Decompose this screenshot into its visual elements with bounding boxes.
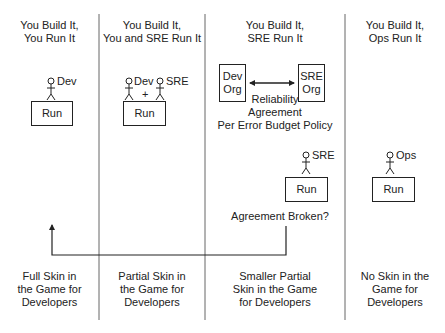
footer-line: Developers bbox=[99, 296, 205, 309]
footer-line: Game for bbox=[345, 283, 445, 296]
reliability-agreement-label: Reliability Agreement Per Error Budget P… bbox=[205, 93, 345, 132]
footer-line: Developers bbox=[345, 296, 445, 309]
column-1-footer: Full Skin in the Game for Developers bbox=[0, 270, 99, 309]
footer-line: No Skin in the bbox=[345, 270, 445, 283]
agreement-broken-feedback-arrow bbox=[52, 225, 286, 255]
stick-figure-dev-icon bbox=[125, 78, 133, 100]
title-line: You Build It, bbox=[0, 19, 99, 32]
column-3-title: You Build It, SRE Run It bbox=[205, 19, 345, 45]
title-line: You Build It, bbox=[345, 19, 445, 32]
title-line: SRE Run It bbox=[205, 32, 345, 45]
run-box: Run bbox=[123, 101, 166, 126]
column-4-title: You Build It, Ops Run It bbox=[345, 19, 445, 45]
stick-figure-ops-icon bbox=[386, 152, 394, 174]
column-2-title: You Build It, You and SRE Run It bbox=[99, 19, 205, 45]
stick-figure-dev-icon bbox=[47, 78, 55, 100]
actor-label-sre: SRE bbox=[312, 149, 335, 162]
footer-line: for Developers bbox=[205, 296, 345, 309]
column-4-footer: No Skin in the Game for Developers bbox=[345, 270, 445, 309]
column-3-footer: Smaller Partial Skin in the Game for Dev… bbox=[205, 270, 345, 309]
stick-figure-sre-icon bbox=[156, 78, 164, 100]
footer-line: Skin in the Game bbox=[205, 283, 345, 296]
plus-sign: + bbox=[142, 88, 148, 101]
actor-label-sre: SRE bbox=[166, 75, 189, 88]
box-line: SRE bbox=[300, 70, 323, 83]
agreement-line: Per Error Budget Policy bbox=[205, 119, 345, 132]
footer-line: Smaller Partial bbox=[205, 270, 345, 283]
agreement-line: Agreement bbox=[205, 106, 345, 119]
column-1-title: You Build It, You Run It bbox=[0, 19, 99, 45]
box-line: Dev bbox=[223, 70, 243, 83]
stick-figure-sre-icon bbox=[302, 152, 310, 174]
title-line: Ops Run It bbox=[345, 32, 445, 45]
footer-line: Full Skin in bbox=[0, 270, 99, 283]
run-box: Run bbox=[285, 177, 328, 202]
actor-label-dev: Dev bbox=[134, 75, 154, 88]
agreement-broken-label: Agreement Broken? bbox=[205, 210, 345, 223]
footer-line: Partial Skin in bbox=[99, 270, 205, 283]
footer-line: the Game for bbox=[99, 283, 205, 296]
actor-label-dev: Dev bbox=[57, 75, 77, 88]
footer-line: the Game for bbox=[0, 283, 99, 296]
run-box: Run bbox=[31, 101, 73, 126]
actor-label-ops: Ops bbox=[396, 149, 416, 162]
title-line: You Build It, bbox=[99, 19, 205, 32]
title-line: You Run It bbox=[0, 32, 99, 45]
title-line: You and SRE Run It bbox=[99, 32, 205, 45]
title-line: You Build It, bbox=[205, 19, 345, 32]
column-2-footer: Partial Skin in the Game for Developers bbox=[99, 270, 205, 309]
run-box: Run bbox=[372, 177, 415, 202]
footer-line: Developers bbox=[0, 296, 99, 309]
agreement-line: Reliability bbox=[205, 93, 345, 106]
